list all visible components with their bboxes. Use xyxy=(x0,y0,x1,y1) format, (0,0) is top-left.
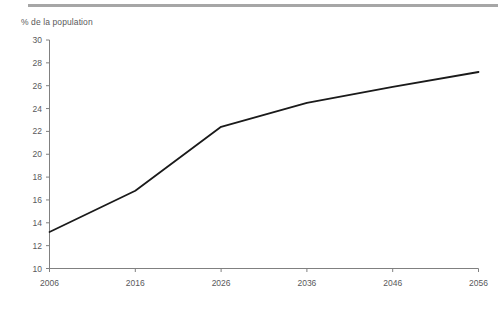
x-tick-label: 2026 xyxy=(198,278,244,288)
y-tick-label: 12 xyxy=(16,241,42,251)
x-tick-label: 2006 xyxy=(27,278,73,288)
y-tick-label: 30 xyxy=(16,35,42,45)
y-tick-label: 18 xyxy=(16,172,42,182)
y-tick-label: 16 xyxy=(16,195,42,205)
x-tick-marks xyxy=(50,269,479,273)
plot-area xyxy=(0,0,498,309)
y-tick-label: 10 xyxy=(16,264,42,274)
y-tick-label: 26 xyxy=(16,81,42,91)
x-tick-label: 2056 xyxy=(456,278,498,288)
axis-lines xyxy=(49,40,479,269)
y-tick-label: 24 xyxy=(16,104,42,114)
y-tick-label: 14 xyxy=(16,218,42,228)
x-tick-label: 2046 xyxy=(370,278,416,288)
y-tick-label: 22 xyxy=(16,126,42,136)
y-tick-label: 28 xyxy=(16,58,42,68)
data-series-group xyxy=(50,72,479,232)
y-tick-label: 20 xyxy=(16,149,42,159)
x-tick-label: 2016 xyxy=(112,278,158,288)
y-tick-marks xyxy=(46,40,50,269)
chart-figure: % de la population 101214161820222426283… xyxy=(0,0,498,309)
series-line-population xyxy=(50,72,479,232)
x-tick-label: 2036 xyxy=(284,278,330,288)
